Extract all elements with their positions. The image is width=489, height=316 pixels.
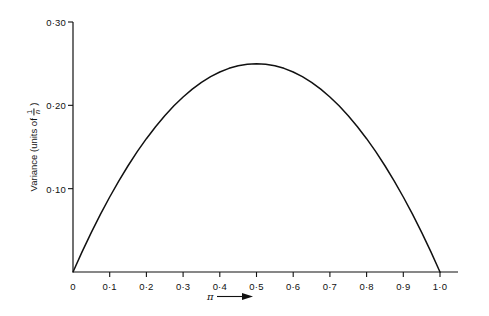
x-axis-tick-label: 0·1 (103, 281, 117, 292)
x-axis-ticks (110, 272, 440, 277)
x-axis-tick-label: 0·7 (323, 281, 337, 292)
x-axis-title: π (207, 291, 253, 302)
x-axis-tick-label: 0·8 (359, 281, 373, 292)
y-axis-tick-label: 0·30 (32, 17, 66, 28)
pi-symbol: π (207, 291, 214, 302)
x-axis-tick-label: 1·0 (433, 281, 447, 292)
y-axis-title-suffix: ) (27, 103, 38, 106)
y-axis-title-prefix: Variance (units of (27, 118, 38, 191)
x-axis-tick-label: 0·2 (139, 281, 153, 292)
fraction-denominator: n (34, 109, 42, 115)
variance-curve (73, 64, 440, 272)
chart-figure: 0·100·200·30 00·10·20·30·40·50·60·70·80·… (0, 0, 489, 316)
y-axis-ticks (68, 22, 73, 189)
plot-canvas (0, 0, 489, 316)
y-axis-title: Variance (units of 1 n ) (26, 103, 42, 192)
x-axis-tick-label: 0·9 (396, 281, 410, 292)
arrow-right-icon (217, 292, 253, 301)
x-axis-tick-label: 0 (70, 281, 75, 292)
x-axis-tick-label: 0·6 (286, 281, 300, 292)
one-over-n-fraction: 1 n (25, 109, 41, 115)
x-axis-tick-label: 0·3 (176, 281, 190, 292)
